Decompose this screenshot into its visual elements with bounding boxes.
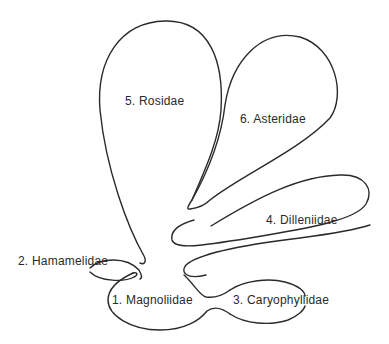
dilleniidae-outline <box>172 175 369 246</box>
rosidae-outline <box>100 21 222 264</box>
label-dilleniidae: 4. Dilleniidae <box>266 213 338 227</box>
hamamelidae-lower-edge <box>90 272 137 280</box>
caryophyllidae-lower-edge <box>230 306 305 323</box>
label-magnoliidae: 1. Magnoliidae <box>112 293 193 307</box>
subclass-diagram <box>0 0 389 344</box>
label-asteridae: 6. Asteridae <box>240 112 306 126</box>
label-caryophyllidae: 3. Caryophyllidae <box>233 293 329 307</box>
label-hamamelidae: 2. Hamamelidae <box>18 254 108 268</box>
label-rosidae: 5. Rosidae <box>125 94 184 108</box>
